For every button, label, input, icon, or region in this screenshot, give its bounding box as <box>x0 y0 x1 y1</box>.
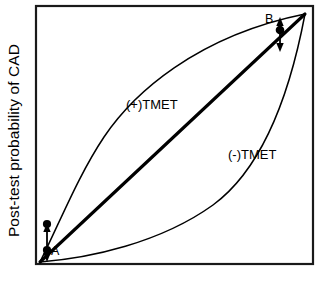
point-label-b: B <box>265 12 273 26</box>
annotation-b-arrowhead-up <box>276 17 283 26</box>
annotation-b-arrowhead-down <box>276 43 283 52</box>
curve-label-negative-tmet: (-)TMET <box>228 147 276 162</box>
annotation-b-pretest-dot <box>276 26 285 35</box>
annotation-a-pretest-dot <box>43 246 51 254</box>
figure-container: Post-test probability of CAD (+)TMET (-)… <box>0 0 325 281</box>
identity-line <box>40 14 305 262</box>
curve-label-positive-tmet: (+)TMET <box>126 97 178 112</box>
point-label-a: A <box>51 244 59 258</box>
annotation-a-posttest-dot <box>43 220 51 228</box>
chart-plot <box>0 0 325 281</box>
